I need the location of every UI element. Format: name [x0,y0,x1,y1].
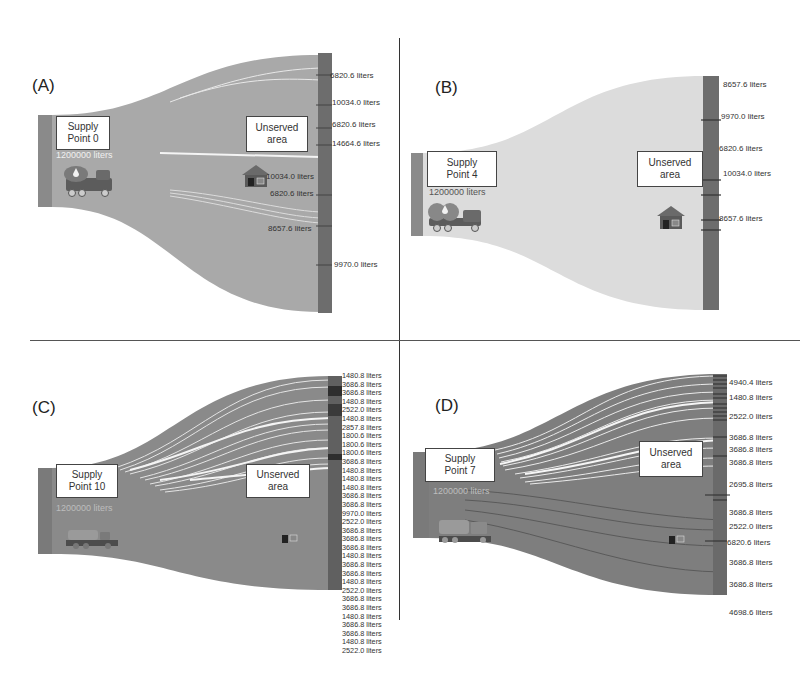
target-name-line2: area [638,169,702,181]
flow-label: 3686.8 liters [729,433,773,442]
flow-label: 8657.6 liters [268,224,312,233]
target-name-line1: Unserved [247,469,309,481]
flow-label: 6820.6 liters [332,120,376,129]
panel-label: (B) [435,78,458,98]
flow-label: 3686.8 liters [729,458,773,467]
panel-d: (D) Supply Point 7 1200000 liters Unserv… [405,340,775,620]
panel-label: (D) [435,396,459,416]
flow-label: 8657.6 liters [719,214,763,223]
source-node-box: Supply Point 4 [427,151,497,187]
target-name-line2: area [247,481,309,493]
flow-label: 6820.6 liters [270,189,314,198]
source-node-box: Supply Point 0 [56,116,110,150]
flow-label: 4940.4 liters [729,378,773,387]
source-amount: 1200000 liters [56,150,113,160]
source-name-line2: Point 10 [57,481,117,493]
flow-label: 6820.6 liters [330,71,374,80]
source-name-line2: Point 4 [428,169,496,181]
source-amount: 1200000 liters [433,486,490,496]
source-name-line2: Point 7 [426,465,494,477]
flow-label: 10034.0 liters [332,98,380,107]
water-truck-icon [439,520,491,543]
flow-label: 3686.8 liters [729,508,773,517]
panel-label: (A) [32,76,55,96]
target-node-box: Unserved area [639,441,703,477]
source-node-box: Supply Point 10 [56,464,118,498]
flow-label: 8657.6 liters [723,80,767,89]
target-name-line2: area [247,134,307,146]
panel-b: (B) Supply Point 4 1200000 liters Unserv… [405,50,775,340]
flow-label: 2695.8 liters [729,480,773,489]
flow-label: 3686.8 liters [729,580,773,589]
target-name-line2: area [640,459,702,471]
flow-label: 2522.0 liters [729,522,773,531]
source-name-line2: Point 0 [57,133,109,145]
flow-label-column: 1480.8 liters 3686.8 liters 3686.8 liter… [342,372,382,656]
target-name-line1: Unserved [247,122,307,134]
target-node-box: Unserved area [246,464,310,498]
panel-a: (A) Supply Point 0 1200000 liters Unserv… [30,50,400,340]
source-name-line1: Supply [428,157,496,169]
target-name-line1: Unserved [640,447,702,459]
panel-label: (C) [32,398,56,418]
flow-label: 10034.0 liters [266,172,314,181]
source-node-box: Supply Point 7 [425,448,495,482]
source-amount: 1200000 liters [429,187,486,197]
target-node-box: Unserved area [246,116,308,152]
flow-label: 6820.6 liters [727,538,771,547]
panel-c: (C) Supply Point 10 1200000 liters Unser… [30,340,400,620]
flow-label: 10034.0 liters [723,169,771,178]
source-name-line1: Supply [57,469,117,481]
flow-label: 6820.6 liters [719,144,763,153]
target-name-line1: Unserved [638,157,702,169]
flow-label: 4698.6 liters [729,608,773,617]
target-node-box: Unserved area [637,151,703,187]
flow-label: 2522.0 liters [729,412,773,421]
flow-label: 3686.8 liters [729,558,773,567]
source-name-line1: Supply [57,121,109,133]
flow-label: 2522.0 liters [342,647,382,656]
flow-label: 9970.0 liters [721,112,765,121]
flow-label: 9970.0 liters [334,260,378,269]
flow-label: 1480.8 liters [729,393,773,402]
flow-label: 3686.8 liters [729,445,773,454]
source-amount: 1200000 liters [56,503,113,513]
flow-label: 14664.6 liters [332,139,380,148]
sankey-flow-a [30,50,400,340]
source-name-line1: Supply [426,453,494,465]
